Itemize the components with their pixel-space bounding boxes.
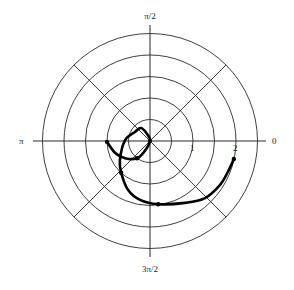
curve-point-marker (119, 171, 123, 175)
polar-plot-figure: π/2 3π/2 π 0 1 2 (0, 0, 294, 290)
origin-point (148, 139, 152, 143)
angle-label-3pi-over-2: 3π/2 (142, 265, 158, 274)
curve-series (105, 128, 236, 206)
radial-tick-label-2: 2 (233, 144, 238, 153)
angle-label-pi-over-2: π/2 (144, 12, 156, 21)
grid-radial-line (150, 65, 226, 141)
radial-tick-label-1: 1 (190, 144, 195, 153)
angle-label-pi: π (19, 137, 24, 146)
curve-point-marker (135, 156, 139, 160)
curve-point-marker (105, 140, 109, 144)
polar-plot (0, 0, 294, 290)
grid-radial-line (74, 141, 150, 217)
angle-label-zero: 0 (272, 137, 277, 146)
curve-point-marker (232, 157, 236, 161)
curve-point-marker (156, 202, 160, 206)
